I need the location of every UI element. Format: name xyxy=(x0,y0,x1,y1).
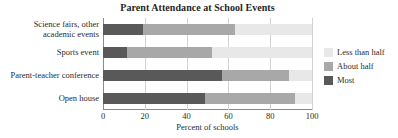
legend-swatch-icon xyxy=(324,76,333,85)
bar-segment[interactable] xyxy=(212,47,312,58)
x-tick-60: 60 xyxy=(215,111,241,121)
bar-segment[interactable] xyxy=(103,47,127,58)
legend-label: About half xyxy=(337,61,374,71)
category-label: Science fairs, otheracademic events xyxy=(0,20,99,39)
x-tick-0: 0 xyxy=(90,111,116,121)
category-label-line: Sports event xyxy=(0,48,99,58)
chart-title: Parent Attendance at School Events xyxy=(90,2,305,13)
x-tick-20: 20 xyxy=(132,111,158,121)
bar-row xyxy=(103,47,312,58)
legend: Less than halfAbout halfMost xyxy=(324,45,385,87)
bar-segment[interactable] xyxy=(103,70,222,81)
bar-segment[interactable] xyxy=(295,93,312,104)
legend-swatch-icon xyxy=(324,62,333,71)
legend-label: Less than half xyxy=(337,47,385,57)
legend-item[interactable]: About half xyxy=(324,59,385,73)
chart-container: Parent Attendance at School Events Scien… xyxy=(0,0,398,138)
x-tick-80: 80 xyxy=(257,111,283,121)
plot-area xyxy=(103,18,312,110)
category-label-line: Open house xyxy=(0,94,99,104)
bar-segment[interactable] xyxy=(289,70,312,81)
x-axis-label: Percent of schools xyxy=(103,122,312,132)
gridline-100 xyxy=(312,18,313,110)
bar-segment[interactable] xyxy=(235,24,312,35)
legend-item[interactable]: Most xyxy=(324,73,385,87)
bar-segment[interactable] xyxy=(127,47,212,58)
bar-row xyxy=(103,70,312,81)
category-label: Sports event xyxy=(0,48,99,58)
legend-item[interactable]: Less than half xyxy=(324,45,385,59)
category-label: Open house xyxy=(0,94,99,104)
legend-swatch-icon xyxy=(324,48,333,57)
bar-segment[interactable] xyxy=(143,24,235,35)
bar-segment[interactable] xyxy=(205,93,295,104)
bar-segment[interactable] xyxy=(103,93,205,104)
category-label-line: academic events xyxy=(0,30,99,40)
category-label: Parent-teacher conference xyxy=(0,71,99,81)
bar-row xyxy=(103,93,312,104)
legend-label: Most xyxy=(337,75,354,85)
bar-segment[interactable] xyxy=(222,70,289,81)
category-label-line: Parent-teacher conference xyxy=(0,71,99,81)
bar-row xyxy=(103,24,312,35)
bar-segment[interactable] xyxy=(103,24,143,35)
x-tick-100: 100 xyxy=(299,111,325,121)
x-tick-40: 40 xyxy=(174,111,200,121)
